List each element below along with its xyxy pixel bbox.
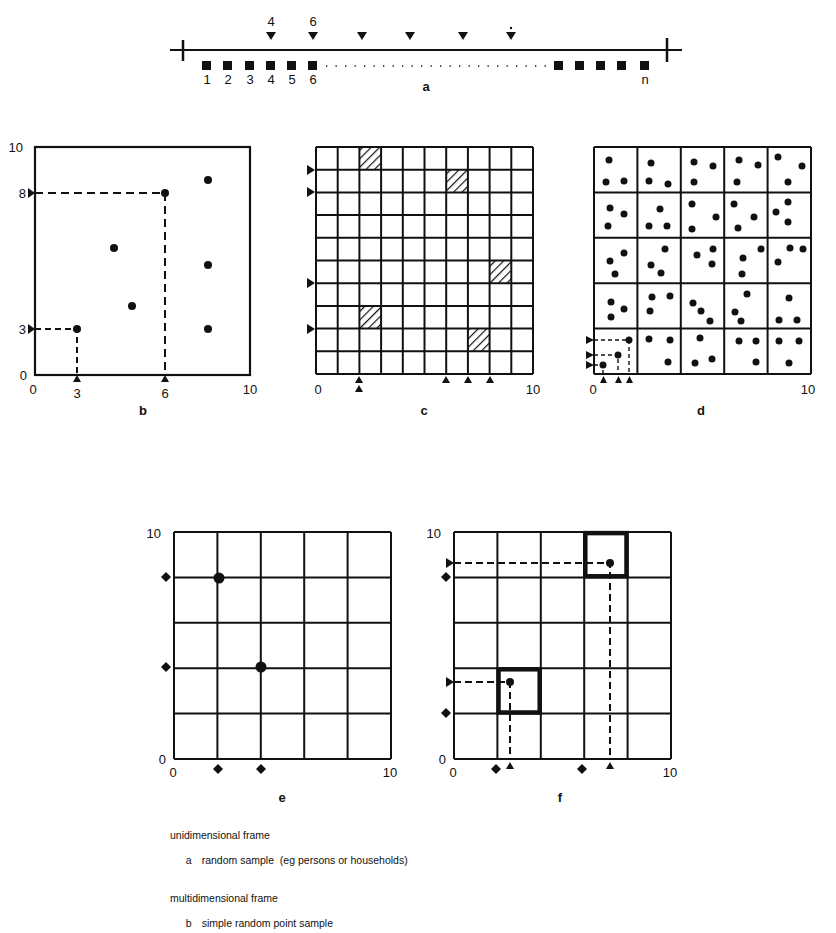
up-triangle-icon xyxy=(464,376,472,383)
right-triangle-icon xyxy=(586,336,594,344)
panel-a-unidimensional-frame: 4 6 1 2 3 4 5 6 n a xyxy=(170,14,682,94)
svg-text:3: 3 xyxy=(19,322,26,337)
down-triangle-icon xyxy=(458,32,468,40)
right-triangle-icon xyxy=(586,361,594,369)
up-triangle-icon xyxy=(355,376,363,383)
dashed-guides xyxy=(454,563,610,759)
sample-points xyxy=(73,176,212,333)
diamond-icon xyxy=(441,708,451,718)
axis-tick-labels: 0 10 xyxy=(314,382,540,397)
right-triangle-icon xyxy=(446,677,454,687)
caption-item-text: simple random point sample xyxy=(202,917,333,929)
up-triangle-icon xyxy=(355,385,363,392)
up-triangle-icon xyxy=(615,376,622,383)
right-triangle-icon xyxy=(307,187,315,197)
svg-text:3: 3 xyxy=(246,72,253,87)
panel-d-stratified-random-sample: 0 10 d xyxy=(586,147,815,418)
right-triangle-icon xyxy=(586,351,594,359)
svg-text:6: 6 xyxy=(309,72,316,87)
caption-item-key: a xyxy=(182,854,202,867)
up-triangle-icon xyxy=(442,376,450,383)
svg-text:0: 0 xyxy=(159,752,166,767)
diamond-icon xyxy=(577,764,587,774)
caption-item: arandom sample (eg persons or households… xyxy=(170,842,408,880)
svg-text:10: 10 xyxy=(427,526,441,541)
svg-text:10: 10 xyxy=(526,382,540,397)
panel-f-label: f xyxy=(558,790,563,805)
down-triangle-icon xyxy=(308,32,318,40)
dashed-guides xyxy=(594,340,629,374)
diamond-icon xyxy=(441,572,451,582)
svg-text:n: n xyxy=(641,72,648,87)
svg-text:0: 0 xyxy=(20,368,27,383)
figure-caption: unidimensional frame arandom sample (eg … xyxy=(170,829,408,933)
axis-tick-labels: 10 0 0 10 xyxy=(147,526,398,780)
up-triangle-icon xyxy=(486,376,494,383)
diamond-icon xyxy=(161,662,171,672)
svg-text:2: 2 xyxy=(224,72,231,87)
caption-group-title: unidimensional frame xyxy=(170,829,408,842)
panel-e-systematic-sample: 10 0 0 10 e xyxy=(147,526,398,805)
up-triangle-icon xyxy=(600,376,607,383)
svg-text:3: 3 xyxy=(73,386,80,401)
population-units xyxy=(202,61,649,70)
right-triangle-icon xyxy=(446,558,454,568)
up-triangle-icon xyxy=(626,376,633,383)
panel-c-label: c xyxy=(420,403,427,418)
svg-text:10: 10 xyxy=(243,382,257,397)
right-triangle-icon xyxy=(307,324,315,334)
svg-text:1: 1 xyxy=(203,72,210,87)
svg-text:10: 10 xyxy=(147,526,161,541)
down-triangle-icon xyxy=(357,32,367,40)
caption-item-key: b xyxy=(182,917,202,930)
diamond-icon xyxy=(256,764,266,774)
axis-tick-labels: 10 0 0 10 xyxy=(427,526,678,780)
down-triangle-icon xyxy=(506,32,516,40)
axis-markers xyxy=(441,558,614,774)
axis-tick-labels: 10 8 3 0 0 3 6 10 xyxy=(9,140,258,401)
svg-text:5: 5 xyxy=(288,72,295,87)
grid-lines xyxy=(454,532,671,759)
grid-lines xyxy=(316,147,533,374)
svg-text:6: 6 xyxy=(161,386,168,401)
svg-text:0: 0 xyxy=(589,382,596,397)
right-triangle-icon xyxy=(307,278,315,288)
panel-a-label: a xyxy=(422,79,430,94)
selected-label-4: 4 xyxy=(267,14,274,29)
panel-f-stratified-systematic-unaligned-sample: 10 0 0 10 f xyxy=(427,526,678,805)
axis-markers xyxy=(161,572,266,774)
grid-lines xyxy=(174,532,391,759)
caption-item: bsimple random point sample xyxy=(170,905,408,933)
up-triangle-icon xyxy=(506,762,514,769)
sample-points xyxy=(600,154,807,369)
svg-text:10: 10 xyxy=(801,382,815,397)
svg-text:8: 8 xyxy=(19,186,26,201)
panel-d-label: d xyxy=(697,403,705,418)
panel-e-label: e xyxy=(278,790,285,805)
svg-text:10: 10 xyxy=(9,140,23,155)
svg-text:4: 4 xyxy=(267,72,274,87)
down-triangle-icon xyxy=(405,32,415,40)
diamond-icon xyxy=(161,572,171,582)
axis-tick-labels: 0 10 xyxy=(589,382,815,397)
up-triangle-icon xyxy=(606,762,614,769)
caption-item-text: random sample (eg persons or households) xyxy=(202,854,408,866)
panel-c-grid-cell-sample: 0 10 c xyxy=(307,147,540,418)
svg-text:10: 10 xyxy=(383,765,397,780)
diamond-icon xyxy=(213,764,223,774)
right-triangle-icon xyxy=(307,165,315,175)
down-triangle-icon xyxy=(266,32,276,40)
diamond-icon xyxy=(491,764,501,774)
axis-markers xyxy=(28,188,169,382)
caption-group-title: multidimensional frame xyxy=(170,892,408,905)
selected-label-6: 6 xyxy=(309,14,316,29)
svg-text:0: 0 xyxy=(29,382,36,397)
panel-b-simple-random-point-sample: 10 8 3 0 0 3 6 10 b xyxy=(9,140,258,418)
svg-text:10: 10 xyxy=(663,765,677,780)
hatched-cells xyxy=(359,147,511,351)
svg-text:0: 0 xyxy=(449,765,456,780)
selection-markers xyxy=(266,27,516,40)
svg-text:0: 0 xyxy=(169,765,176,780)
svg-text:0: 0 xyxy=(439,752,446,767)
